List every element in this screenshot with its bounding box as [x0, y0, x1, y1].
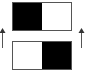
- top-box-right-cell: [42, 3, 71, 30]
- top-box-left-cell: [13, 3, 42, 30]
- bottom-box-right-cell: [42, 42, 71, 69]
- up-arrow-icon-left: [0, 28, 6, 48]
- up-arrow-icon-right: [78, 28, 85, 48]
- bottom-box: [12, 41, 72, 70]
- bottom-box-left-cell: [13, 42, 42, 69]
- top-box: [12, 2, 72, 31]
